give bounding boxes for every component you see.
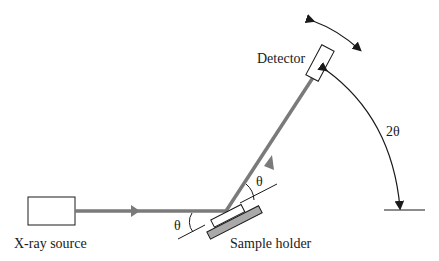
diffracted-beam (226, 76, 314, 211)
diffraction-diagram (0, 0, 439, 261)
sample-holder-label: Sample holder (230, 237, 311, 251)
source-label: X-ray source (14, 237, 87, 251)
two-theta-label: 2θ (386, 125, 400, 139)
theta-diffracted-label: θ (256, 175, 263, 189)
diffracted-beam-arrow-icon (264, 155, 274, 170)
theta-incident-label: θ (174, 219, 181, 233)
detector-box (306, 45, 334, 82)
theta-arc-incident (189, 213, 193, 232)
sample-plane-line-left (178, 225, 205, 239)
incident-beam-arrow-icon (131, 205, 140, 217)
xray-source-box (28, 197, 75, 225)
two-theta-arc (326, 70, 400, 208)
rotation-double-arrow-icon (313, 21, 360, 50)
detector-label: Detector (257, 52, 305, 66)
